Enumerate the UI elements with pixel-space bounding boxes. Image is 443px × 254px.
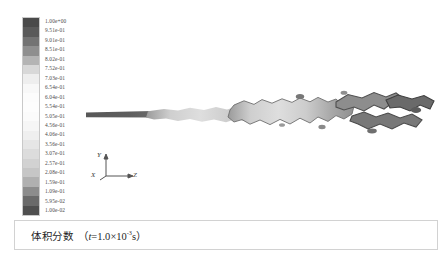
plume-fragment-cluster-b xyxy=(350,112,422,129)
colorbar-tick-label: 5.05e-01 xyxy=(45,114,65,119)
colorbar-gradient-bar xyxy=(22,17,40,216)
plume-droplet xyxy=(411,107,421,113)
axis-arrow-y xyxy=(104,154,108,159)
colorbar-tick-label: 3.07e-01 xyxy=(45,152,65,157)
plume-droplet xyxy=(341,91,348,95)
colorbar-tick-label: 9.01e-01 xyxy=(45,38,65,43)
caption-time-value: =1.0 xyxy=(91,231,110,242)
colorbar-tick-label: 1.00e+00 xyxy=(45,19,66,24)
caption-text: 体积分数（t=1.0×10-3s） xyxy=(31,228,146,243)
colorbar-tick-label: 9.51e-01 xyxy=(45,29,65,34)
axis-label-y: Y xyxy=(97,151,101,159)
plume-droplet xyxy=(318,125,325,129)
colorbar-tick-label: 2.57e-01 xyxy=(45,161,65,166)
plume-droplet xyxy=(367,129,377,134)
colorbar-tick-label: 7.52e-01 xyxy=(45,66,65,71)
caption-paren-open: （ xyxy=(78,231,88,242)
colorbar-tick-label: 4.06e-01 xyxy=(45,133,65,138)
colorbar-tick-label: 8.02e-01 xyxy=(45,57,65,62)
colorbar-tick-label: 1.09e-01 xyxy=(45,190,65,195)
axis-orientation-triad: Y X Z xyxy=(93,152,145,186)
colorbar-tick-label: 6.04e-01 xyxy=(45,95,65,100)
caption-title: 体积分数 xyxy=(31,231,73,242)
colorbar-tick-labels: 1.00e+009.51e-019.01e-018.51e-018.02e-01… xyxy=(45,17,87,216)
colorbar-tick-label: 1.59e-01 xyxy=(45,180,65,185)
colorbar-tick-label: 2.08e-01 xyxy=(45,171,65,176)
colorbar-legend: 1.00e+009.51e-019.01e-018.51e-018.02e-01… xyxy=(22,17,86,216)
axis-label-x: X xyxy=(91,171,95,179)
axis-line-x xyxy=(100,176,106,180)
colorbar-tick-label: 3.56e-01 xyxy=(45,142,65,147)
caption-paren-close: ） xyxy=(136,231,146,242)
figure-panel: 1.00e+009.51e-019.01e-018.51e-018.02e-01… xyxy=(0,0,443,254)
colorbar-tick-label: 5.54e-01 xyxy=(45,104,65,109)
plume-dispersed-cloud-mid xyxy=(228,97,354,124)
colorbar-tick-label: 5.95e-02 xyxy=(45,199,65,204)
colorbar-tick-label: 4.56e-01 xyxy=(45,123,65,128)
colorbar-tick-label: 6.54e-01 xyxy=(45,85,65,90)
spray-plume-contour xyxy=(86,86,436,148)
plume-droplet xyxy=(279,123,285,127)
colorbar-tick-label: 1.00e-02 xyxy=(45,209,65,214)
caption-box: 体积分数（t=1.0×10-3s） xyxy=(14,220,438,250)
colorbar-tick-label: 8.51e-01 xyxy=(45,47,65,52)
plume-fragment-cluster-c xyxy=(386,95,434,111)
colorbar-tick-label: 7.03e-01 xyxy=(45,76,65,81)
axis-label-z: Z xyxy=(133,171,137,179)
plume-droplet xyxy=(296,94,304,99)
caption-time-times: ×10 xyxy=(110,231,126,242)
